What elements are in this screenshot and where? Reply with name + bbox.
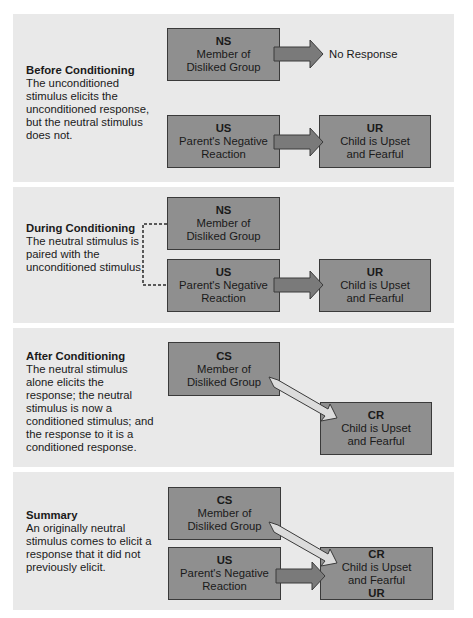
box-line: Parent's Negative	[180, 567, 269, 580]
panel-summary: Summary An originally neutral stimulus c…	[13, 472, 454, 610]
us-box: US Parent's Negative Reaction	[167, 259, 280, 312]
us-box: US Parent's Negative Reaction	[168, 547, 281, 600]
box-abbr: CR	[368, 409, 384, 422]
ns-box: NS Member of Disliked Group	[167, 197, 280, 250]
ns-box: NS Member of Disliked Group	[167, 28, 280, 81]
box-abbr: US	[216, 266, 232, 279]
box-abbr: US	[216, 122, 232, 135]
panel-after-conditioning: After Conditioning The neutral stimulus …	[13, 328, 454, 467]
box-abbr: NS	[216, 204, 232, 217]
box-line: Child is Upset	[341, 422, 411, 435]
box-abbr: CS	[217, 494, 233, 507]
panel-description: An originally neutral stimulus comes to …	[26, 522, 152, 573]
box-line: Disliked Group	[186, 230, 260, 243]
box-line: and Fearful	[346, 292, 403, 305]
box-line: Child is Upset	[340, 135, 410, 148]
panel-during-conditioning: During Conditioning The neutral stimulus…	[13, 187, 454, 323]
panel-title: After Conditioning	[26, 350, 154, 363]
description-summary: Summary An originally neutral stimulus c…	[26, 509, 154, 574]
box-abbr: CR	[368, 548, 384, 561]
box-abbr: US	[217, 554, 233, 567]
box-abbr: UR	[367, 122, 383, 135]
cr-box: CR Child is Upset and Fearful	[320, 402, 432, 455]
box-line: Child is Upset	[340, 279, 410, 292]
description-after: After Conditioning The neutral stimulus …	[26, 350, 154, 454]
description-during: During Conditioning The neutral stimulus…	[26, 222, 151, 274]
box-line: Child is Upset	[342, 561, 412, 574]
cr-ur-box: CR Child is Upset and Fearful UR	[320, 547, 433, 600]
no-response-label: No Response	[329, 48, 397, 61]
box-abbr: UR	[367, 266, 383, 279]
description-before: Before Conditioning The unconditioned st…	[26, 64, 151, 142]
panel-description: The neutral stimulus is paired with the …	[26, 235, 144, 273]
panel-description: The unconditioned stimulus elicits the u…	[26, 77, 149, 141]
panel-title: Before Conditioning	[26, 64, 151, 77]
panel-before-conditioning: Before Conditioning The unconditioned st…	[13, 14, 454, 182]
cs-box: CS Member of Disliked Group	[168, 342, 280, 396]
panel-title: Summary	[26, 509, 154, 522]
box-line: Reaction	[201, 292, 246, 305]
box-line: and Fearful	[346, 148, 403, 161]
box-line: Member of	[198, 507, 252, 520]
box-line: Member of	[197, 217, 251, 230]
ur-box: UR Child is Upset and Fearful	[319, 115, 431, 168]
box-abbr: CS	[216, 350, 232, 363]
panel-title: During Conditioning	[26, 222, 151, 235]
box-line: and Fearful	[348, 574, 405, 587]
panel-description: The neutral stimulus alone elicits the r…	[26, 363, 153, 453]
box-line: Reaction	[202, 580, 247, 593]
box-line: Disliked Group	[187, 376, 261, 389]
box-line: Disliked Group	[186, 61, 260, 74]
box-abbr-secondary: UR	[368, 587, 384, 600]
box-line: Reaction	[201, 148, 246, 161]
box-line: Parent's Negative	[179, 279, 268, 292]
us-box: US Parent's Negative Reaction	[167, 115, 280, 168]
box-line: Member of	[197, 363, 251, 376]
box-line: Disliked Group	[187, 520, 261, 533]
ur-box: UR Child is Upset and Fearful	[319, 259, 431, 312]
box-line: Member of	[197, 48, 251, 61]
box-abbr: NS	[216, 35, 232, 48]
box-line: Parent's Negative	[179, 135, 268, 148]
box-line: and Fearful	[347, 435, 404, 448]
cs-box: CS Member of Disliked Group	[168, 487, 281, 540]
